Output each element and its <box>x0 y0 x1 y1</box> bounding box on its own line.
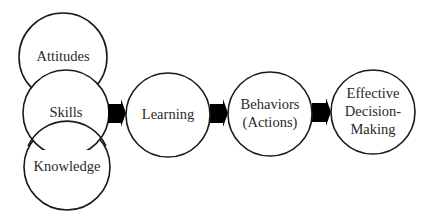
arrow-skills-to-learning <box>108 99 126 127</box>
skills-label: Skills <box>49 104 82 120</box>
node-skills: Skills <box>23 70 109 156</box>
arrow-learning-to-behaviors <box>210 99 228 127</box>
learning-label: Learning <box>142 106 194 122</box>
behaviors-label-line2: (Actions) <box>243 114 298 131</box>
attitudes-label: Attitudes <box>36 48 90 64</box>
behaviors-label-line1: Behaviors <box>241 96 300 112</box>
effective-label-line1: Effective <box>347 85 400 101</box>
knowledge-label: Knowledge <box>34 158 101 174</box>
effective-label-line2: Decision- <box>345 103 402 119</box>
arrow-behaviors-to-effective <box>312 98 331 126</box>
effective-label-line3: Making <box>350 121 395 137</box>
flow-diagram: Attitudes Knowledge Skills Learning Beha… <box>0 0 433 223</box>
node-effective-decision-making: Effective Decision- Making <box>331 70 415 154</box>
node-behaviors: Behaviors (Actions) <box>228 72 312 156</box>
knowledge-overlap-mask <box>40 150 95 158</box>
node-learning: Learning <box>126 73 210 157</box>
